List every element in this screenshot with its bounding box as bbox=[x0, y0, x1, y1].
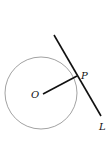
tangent-diagram: O P L bbox=[0, 0, 111, 143]
label-line-l: L bbox=[98, 121, 106, 132]
tangent-line-l bbox=[54, 35, 101, 116]
label-point-p: P bbox=[80, 70, 88, 81]
label-center-o: O bbox=[31, 89, 39, 100]
radius-segment-op bbox=[43, 76, 77, 94]
circle bbox=[5, 57, 77, 129]
